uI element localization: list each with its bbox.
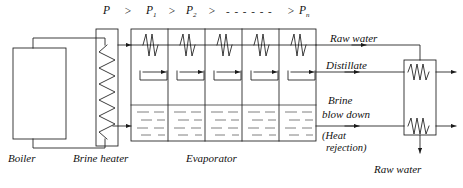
boiler-bottom-pipe — [33, 139, 105, 148]
pressure-gt-4: > — [287, 5, 295, 17]
heat-rejection-coil-lower — [408, 118, 429, 134]
label-raw-water-bottom: Raw water — [374, 164, 421, 176]
pressure-label-p0: P — [103, 4, 110, 16]
pressure-gt-2: > — [168, 5, 176, 17]
label-heat: (Heat — [322, 130, 346, 141]
label-rejection: rejection) — [326, 142, 366, 153]
label-blow-down: blow down — [322, 109, 370, 121]
label-distillate: Distillate — [326, 60, 367, 72]
boiler-body — [13, 48, 66, 139]
pressure-gt-3: > — [208, 5, 216, 17]
brine-liquid-hatching — [137, 112, 313, 135]
pressure-gt-1: > — [124, 5, 132, 17]
pressure-ellipsis-dashes: - - - - - - — [226, 6, 273, 18]
raw-water-top-stream — [316, 45, 420, 60]
brine-heater-coil — [99, 45, 115, 139]
label-brine-heater: Brine heater — [73, 153, 128, 165]
evaporator-shell — [131, 29, 316, 141]
label-boiler: Boiler — [8, 153, 36, 165]
pressure-label-p1: P1 — [146, 4, 157, 20]
label-evaporator: Evaporator — [186, 153, 237, 165]
heat-rejection-coil-upper — [408, 64, 429, 80]
pressure-label-p2: P2 — [186, 4, 197, 20]
msf-desalination-diagram: P > P1 > P2 > - - - - - - > Pn Boiler Br… — [0, 0, 463, 188]
label-raw-water-top: Raw water — [330, 33, 377, 45]
boiler-top-pipe — [33, 38, 105, 48]
label-brine: Brine — [328, 95, 352, 107]
pressure-label-pn: Pn — [299, 4, 310, 20]
